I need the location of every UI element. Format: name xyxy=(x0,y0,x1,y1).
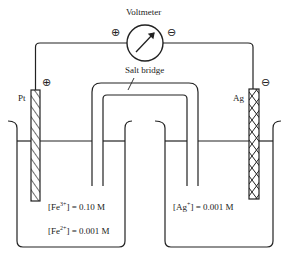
pt-plus-icon: ⊕ xyxy=(42,77,51,88)
ag-minus-icon: ⊖ xyxy=(261,77,270,88)
voltmeter-minus-icon: ⊖ xyxy=(167,27,176,38)
right-wire xyxy=(163,43,253,89)
fe3-concentration: [Fe3+] = 0.10 M xyxy=(48,201,105,212)
ag-electrode xyxy=(249,89,259,199)
right-beaker xyxy=(155,121,281,247)
salt-bridge-label: Salt bridge xyxy=(125,66,164,75)
pt-electrode xyxy=(31,90,40,201)
voltmeter-label: Voltmeter xyxy=(126,8,161,17)
ag-electrode-label: Ag xyxy=(233,94,244,103)
pt-electrode-label: Pt xyxy=(18,94,26,103)
voltmeter-plus-icon: ⊕ xyxy=(111,27,120,38)
ag-concentration: [Ag+] = 0.001 M xyxy=(173,201,233,212)
galvanic-cell-drawing xyxy=(0,0,287,261)
salt-bridge-outer xyxy=(92,83,198,186)
fe2-concentration: [Fe2+] = 0.001 M xyxy=(48,225,109,236)
